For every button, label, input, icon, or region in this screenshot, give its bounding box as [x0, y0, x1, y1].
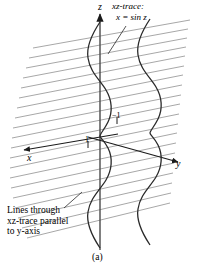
axis-label-z: z	[98, 1, 102, 12]
ruled-surface-annotation-line2: xz-trace parallel	[7, 216, 68, 227]
tick-label-positive-one: 1	[85, 136, 89, 145]
tick-label-negative-one: −1	[112, 112, 121, 121]
ruled-surface-annotation-line3: to y-axis	[7, 226, 68, 237]
ruled-surface-annotation: Lines through xz-trace parallel to y-axi…	[7, 205, 68, 237]
ruled-surface-annotation-line1: Lines through	[7, 205, 68, 216]
xz-trace-annotation: xz-trace: x = sin z	[112, 1, 147, 22]
xz-trace-annotation-line2: x = sin z	[116, 12, 147, 22]
xz-trace-annotation-line1: xz-trace:	[112, 1, 144, 11]
translated-trace-curve	[138, 19, 162, 245]
figure-caption: (a)	[92, 252, 103, 263]
axis-label-x: x	[27, 152, 31, 163]
y-axis	[88, 137, 178, 162]
axis-label-y: y	[176, 158, 180, 169]
figure-container: z x y −1 1 xz-trace: x = sin z Lines thr…	[0, 0, 206, 273]
